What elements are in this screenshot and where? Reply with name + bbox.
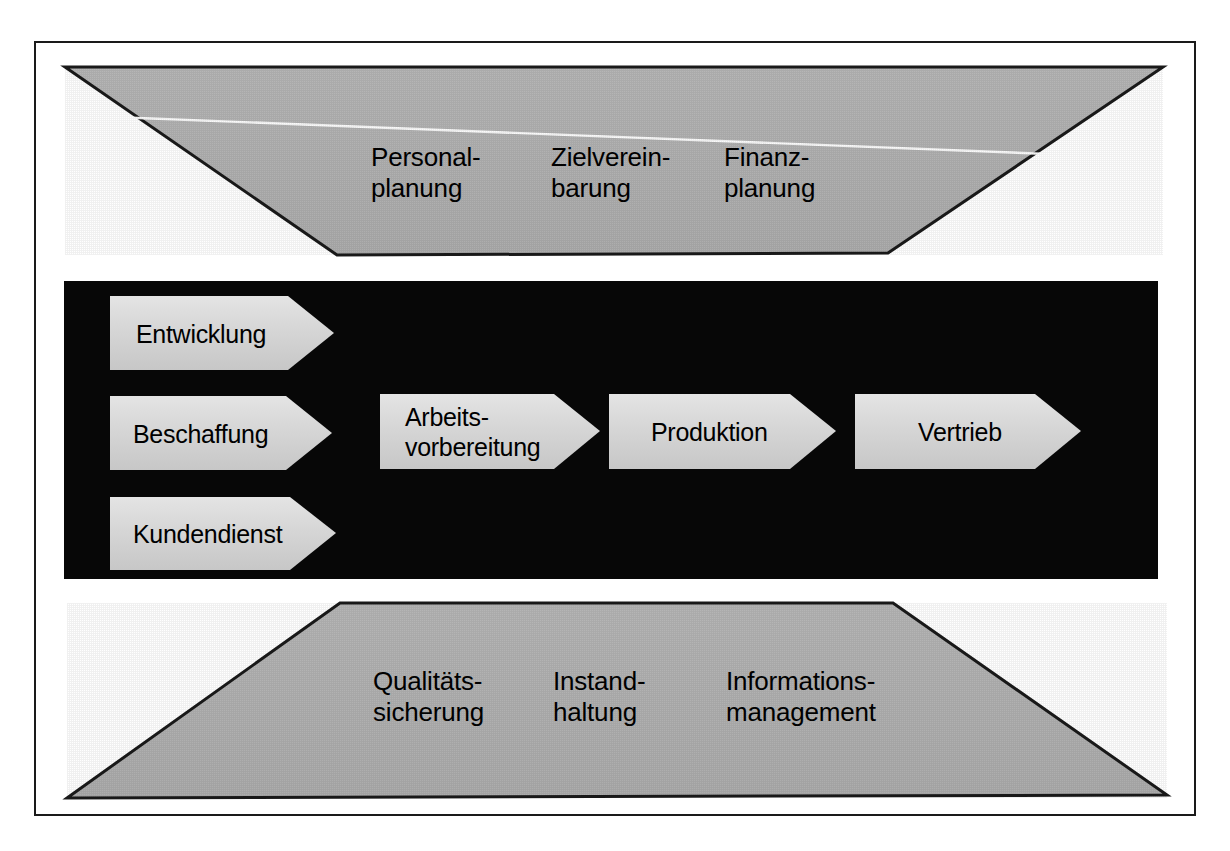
label-arbeitsvorbereitung[interactable]: Arbeits- vorbereitung [405,402,540,462]
label-vertrieb[interactable]: Vertrieb [918,417,1002,447]
label-finanzplanung[interactable]: Finanz- planung [724,142,815,204]
label-informationsmanagement[interactable]: Informations- management [726,666,876,728]
label-kundendienst[interactable]: Kundendienst [133,519,282,549]
label-qualitaetssicherung[interactable]: Qualitäts- sicherung [373,666,484,728]
label-entwicklung[interactable]: Entwicklung [136,319,266,349]
label-zielvereinbarung[interactable]: Zielverein- barung [551,142,670,204]
label-beschaffung[interactable]: Beschaffung [133,419,268,449]
label-produktion[interactable]: Produktion [651,417,768,447]
label-personalplanung[interactable]: Personal- planung [371,142,480,204]
diagram-canvas: Personal- planung Zielverein- barung Fin… [0,0,1230,851]
label-instandhaltung[interactable]: Instand- haltung [553,666,645,728]
